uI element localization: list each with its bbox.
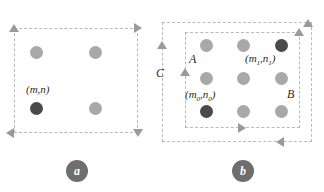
caption-badge-b: b [232, 160, 254, 182]
panel-a-label-mn: (m,n) [26, 84, 50, 95]
panel-b-dot-r0c1 [237, 39, 250, 52]
panel-b-label-c: C [156, 67, 164, 79]
panel-b-dot-r0c0 [200, 39, 213, 52]
panel-b-dot-r2c0 [200, 105, 213, 118]
panel-b-arrow-inner-top-right-up [294, 28, 304, 36]
panel-b-arrow-inner-left-up [180, 68, 190, 76]
panel-b-label-a: A [189, 53, 196, 65]
label-m1n1-close: ) [272, 52, 276, 64]
figure-canvas: (m,n) (m1,n1) (m0,n0) A B C a b [0, 0, 324, 192]
label-m0n0-base: (m [185, 88, 197, 100]
panel-b-dot-r1c0 [200, 72, 213, 85]
panel-a-dot-r0c1 [89, 46, 102, 59]
panel-b-label-m0n0: (m0,n0) [185, 89, 216, 103]
panel-a-dot-r1c0 [30, 102, 43, 115]
panel-a-outer-window [14, 28, 138, 133]
panel-b-dot-r0c2 [275, 39, 288, 52]
panel-b-dot-r1c1 [237, 72, 250, 85]
caption-badge-b-label: b [240, 165, 246, 177]
panel-b-label-m1n1: (m1,n1) [245, 53, 276, 67]
caption-badge-a: a [66, 160, 88, 182]
panel-b-arrow-outer-top-right-up [303, 19, 313, 27]
panel-a-arrow-top-right-right [134, 23, 142, 33]
panel-b-arrow-inner-bottom-right [238, 123, 246, 133]
panel-b-arrow-outer-left-up [157, 41, 167, 49]
panel-b-label-b: B [287, 88, 294, 100]
panel-a-arrow-bottom-left-left [6, 128, 14, 138]
panel-b-dot-r1c2 [275, 72, 288, 85]
label-m1n1-base: (m [245, 52, 257, 64]
panel-b-arrow-outer-bottom-left [276, 137, 284, 147]
panel-a-arrow-bottom-right-down [133, 129, 143, 137]
caption-badge-a-label: a [74, 165, 80, 177]
panel-a-dot-r0c0 [30, 46, 43, 59]
panel-a-dot-r1c1 [89, 102, 102, 115]
panel-b-dot-r2c2 [275, 105, 288, 118]
panel-b-dot-r2c1 [237, 105, 250, 118]
label-m0n0-close: ) [212, 88, 216, 100]
panel-a-arrow-top-left-up [9, 24, 19, 32]
